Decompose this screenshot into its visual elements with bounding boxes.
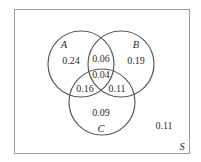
value-b-only: 0.19 xyxy=(127,55,145,66)
value-outside: 0.11 xyxy=(155,120,172,131)
value-b-c-only: 0.11 xyxy=(108,83,125,94)
value-a-only: 0.24 xyxy=(62,55,80,66)
set-label-a: A xyxy=(60,39,68,50)
value-a-b-only: 0.06 xyxy=(92,53,110,64)
universe-label: S xyxy=(179,141,185,152)
value-c-only: 0.09 xyxy=(92,107,110,118)
value-a-b-c: 0.04 xyxy=(92,69,110,80)
set-label-b: B xyxy=(133,39,140,50)
value-a-c-only: 0.16 xyxy=(76,83,94,94)
set-label-c: C xyxy=(97,123,105,134)
venn-diagram: A B C S 0.24 0.19 0.09 0.06 0.04 0.16 0.… xyxy=(0,0,201,162)
